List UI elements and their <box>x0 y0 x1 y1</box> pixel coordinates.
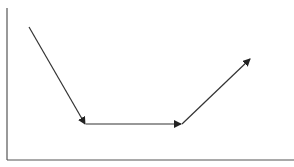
diagram-canvas <box>0 0 294 167</box>
arrow-path <box>29 27 250 124</box>
arrow-segment-3 <box>182 59 250 124</box>
arrow-segment-1 <box>29 27 85 124</box>
